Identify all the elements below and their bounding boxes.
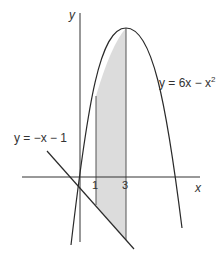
parabola-equation-label: y = 6x − x2 [159, 75, 216, 90]
x-axis-label: x [194, 181, 202, 195]
tick-label-3: 3 [122, 179, 128, 191]
parabola-equation-sup: 2 [211, 75, 216, 84]
line-equation-label: y = −x − 1 [14, 131, 67, 145]
y-axis-label: y [68, 8, 76, 22]
shaded-region [96, 28, 126, 240]
tick-label-1: 1 [92, 179, 98, 191]
parabola-equation-main: y = 6x − x [159, 76, 211, 90]
graph-canvas: y x 1 3 y = 6x − x2 y = −x − 1 [0, 0, 220, 255]
